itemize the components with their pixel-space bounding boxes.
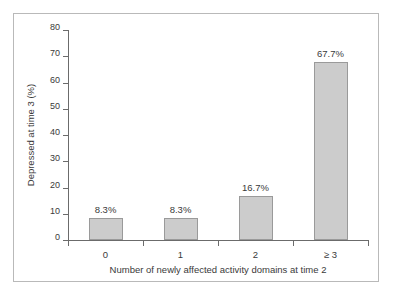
x-tick-mark [368,241,369,246]
y-tick-label: 0 [55,233,60,242]
y-tick-mark [63,30,68,31]
y-tick-label: 10 [50,207,60,216]
y-tick-label: 70 [50,49,60,58]
bar-value-label-4: 67.7% [301,49,361,59]
x-tick-label-2: 1 [151,250,211,260]
x-axis-title: Number of newly affected activity domain… [68,264,368,276]
y-tick-label: 30 [50,154,60,163]
y-tick-mark [63,161,68,162]
y-tick-mark [63,109,68,110]
bar-value-label-1: 8.3% [76,205,136,215]
x-tick-label-1: 0 [76,250,136,260]
x-tick-label-3: 2 [226,250,286,260]
y-tick-label: 80 [50,23,60,32]
y-tick-label: 20 [50,181,60,190]
y-tick-mark [63,214,68,215]
bar-2 [164,218,198,240]
y-tick-label: 40 [50,128,60,137]
bar-1 [89,218,123,240]
y-tick-mark [63,135,68,136]
y-tick-mark [63,83,68,84]
bar-value-label-2: 8.3% [151,205,211,215]
y-tick-label: 50 [50,102,60,111]
bar-4 [314,62,348,240]
y-tick-mark [63,188,68,189]
x-tick-label-4: ≥ 3 [301,250,361,260]
x-tick-mark [68,241,69,246]
bar-3 [239,196,273,240]
plot-area: 01020304050607080 8.3%8.3%16.7%67.7% 012… [68,30,368,240]
y-axis-line [68,30,69,241]
y-tick-mark [63,56,68,57]
x-tick-mark [293,241,294,246]
bar-value-label-3: 16.7% [226,183,286,193]
y-axis-title: Depressed at time 3 (%) [24,30,38,240]
figure: Depressed at time 3 (%) 0102030405060708… [0,0,395,300]
y-tick-label: 60 [50,76,60,85]
x-tick-mark [143,241,144,246]
x-tick-mark [218,241,219,246]
